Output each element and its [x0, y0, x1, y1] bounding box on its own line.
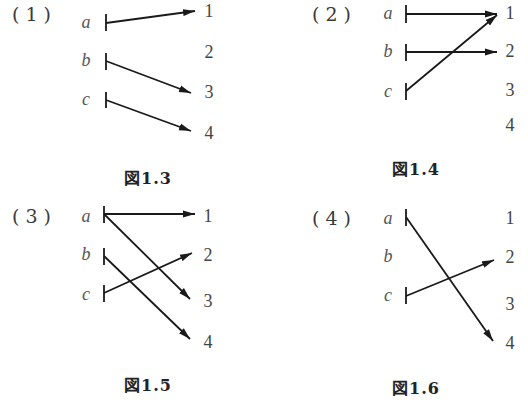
- arrow-b-to-4: [104, 256, 190, 339]
- arrow-b-to-3: [106, 61, 191, 93]
- mapping-arrows: [0, 0, 528, 417]
- arrow-c-to-4: [106, 100, 191, 131]
- arrow-a-to-1: [106, 11, 195, 23]
- arrow-c-to-1: [406, 15, 497, 91]
- mapping-figures: (1) a b c 1 2 3 4 図1.3 (2) a b c 1 2 3 4…: [0, 0, 528, 417]
- arrow-c-to-2: [406, 260, 494, 296]
